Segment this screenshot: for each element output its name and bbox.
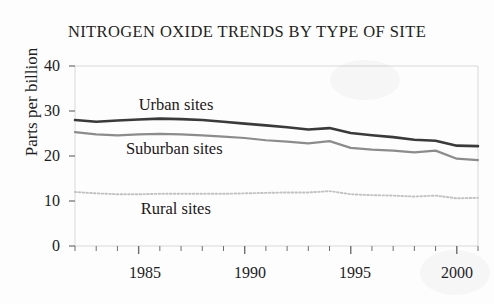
x-axis-tick-labels: 1985 1990 1995 2000 — [0, 0, 494, 304]
series-label-rural-sites: Rural sites — [141, 199, 211, 219]
chart-figure: NITROGEN OXIDE TRENDS BY TYPE OF SITE Pa… — [0, 0, 494, 304]
series-label-urban-sites: Urban sites — [139, 95, 214, 115]
x-tick-label-1985: 1985 — [110, 264, 180, 282]
x-tick-label-1995: 1995 — [320, 264, 390, 282]
x-tick-label-1990: 1990 — [215, 264, 285, 282]
x-tick-label-2000: 2000 — [422, 264, 492, 282]
series-label-suburban-sites: Suburban sites — [126, 139, 223, 159]
